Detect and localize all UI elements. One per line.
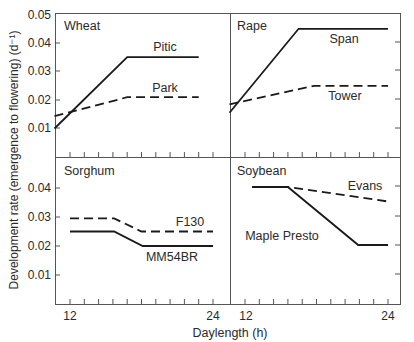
series-labels: Pitic Park Span Tower F130 MM54BR Maple …	[146, 32, 382, 264]
xtick-label-right-24: 24	[381, 309, 395, 323]
ytick-label: 0.03	[28, 64, 52, 78]
ytick-label: 0.04	[28, 36, 52, 50]
series-line-span	[230, 29, 389, 113]
ytick-label: 0.04	[28, 181, 52, 195]
series-label-f130: F130	[176, 215, 205, 229]
series-label-span: Span	[329, 32, 358, 46]
panel-title-wheat: Wheat	[64, 19, 101, 33]
x-tick-labels: 12 24 12 24	[63, 309, 395, 323]
xtick-label-left-24: 24	[206, 309, 220, 323]
x-axis-label: Daylength (h)	[192, 326, 267, 340]
panel-title-rape: Rape	[237, 19, 267, 33]
series-line-tower	[230, 86, 389, 105]
series-label-park: Park	[152, 81, 178, 95]
series-line-mm54br	[70, 232, 213, 247]
plot-frame	[56, 14, 401, 305]
x-ticks	[70, 152, 388, 304]
series-lines	[55, 29, 389, 246]
ytick-label: 0.01	[28, 268, 52, 282]
ytick-label: 0.02	[28, 93, 52, 107]
series-label-mm54br: MM54BR	[146, 250, 198, 264]
panel-title-soybean: Soybean	[237, 164, 286, 178]
ytick-label: 0.05	[28, 8, 52, 22]
series-label-tower: Tower	[328, 89, 361, 103]
crop-development-chart: 0.05 0.04 0.03 0.02 0.01 0.04 0.03 0.02 …	[0, 0, 414, 342]
xtick-label-left-12: 12	[63, 309, 77, 323]
y-axis-label: Development rate (emergence to flowering…	[7, 31, 21, 290]
ytick-label: 0.01	[28, 121, 52, 135]
series-label-pitic: Pitic	[153, 40, 177, 54]
y-tick-labels: 0.05 0.04 0.03 0.02 0.01 0.04 0.03 0.02 …	[28, 8, 52, 282]
xtick-label-right-12: 12	[239, 309, 253, 323]
ytick-label: 0.03	[28, 210, 52, 224]
panel-title-sorghum: Sorghum	[64, 164, 115, 178]
ytick-label: 0.02	[28, 239, 52, 253]
series-label-evans: Evans	[348, 179, 383, 193]
series-label-maple-presto: Maple Presto	[245, 229, 319, 243]
